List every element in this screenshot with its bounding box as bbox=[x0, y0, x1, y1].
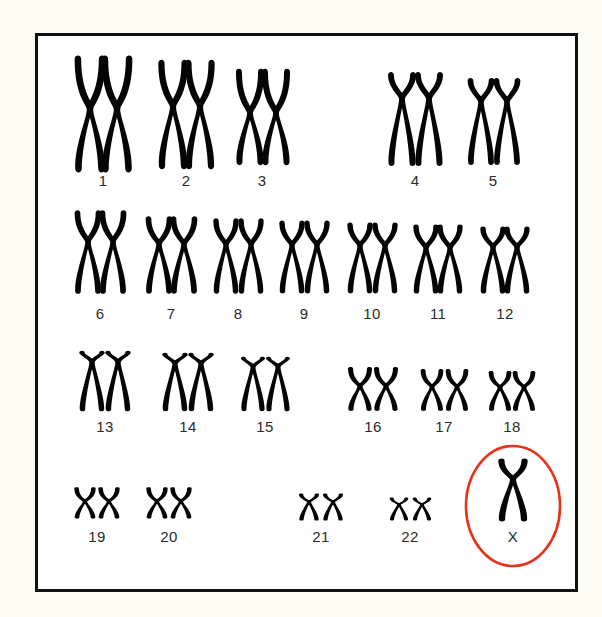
chromosome-X-1 bbox=[498, 459, 527, 522]
chromosome-group-5 bbox=[468, 78, 521, 165]
chromosome-label-16: 16 bbox=[364, 418, 381, 435]
chromosome-label-1: 1 bbox=[99, 172, 108, 189]
chromosome-group-20 bbox=[146, 487, 191, 518]
chromosome-1-1 bbox=[75, 56, 106, 173]
chromosome-17-2 bbox=[446, 369, 469, 411]
chromosome-11-2 bbox=[437, 224, 462, 293]
chromosome-group-10 bbox=[347, 222, 397, 293]
chromosome-16-2 bbox=[374, 367, 398, 411]
chromosome-4-1 bbox=[388, 72, 416, 166]
chromosome-group-18 bbox=[489, 371, 536, 411]
chromosome-group-2 bbox=[158, 60, 214, 170]
row-3 bbox=[79, 351, 535, 412]
chromosome-15-1 bbox=[241, 357, 265, 411]
chromosome-10-1 bbox=[347, 222, 372, 293]
chromosome-group-13 bbox=[79, 351, 130, 412]
chromosome-16-1 bbox=[348, 367, 372, 411]
chromosome-8-1 bbox=[213, 218, 238, 293]
chromosome-label-2: 2 bbox=[182, 172, 191, 189]
chromosome-label-18: 18 bbox=[503, 418, 520, 435]
chromosome-group-7 bbox=[146, 216, 198, 293]
chromosome-label-17: 17 bbox=[435, 418, 452, 435]
chromosome-5-2 bbox=[494, 78, 521, 165]
chromosome-22-1 bbox=[390, 497, 409, 520]
chromosome-label-22: 22 bbox=[401, 528, 418, 545]
row-1 bbox=[75, 56, 521, 173]
chromosome-21-2 bbox=[323, 493, 343, 520]
x-chromosome-highlight bbox=[466, 446, 560, 566]
chromosome-6-2 bbox=[100, 210, 127, 294]
chromosome-group-X bbox=[498, 459, 527, 522]
chromosome-group-1 bbox=[75, 56, 133, 173]
chromosome-6-1 bbox=[75, 210, 102, 294]
karyotype-canvas: 12345678910111213141516171819202122X bbox=[38, 36, 575, 589]
chromosome-label-5: 5 bbox=[489, 172, 498, 189]
chromosome-19-1 bbox=[74, 487, 95, 518]
chromosome-2-1 bbox=[158, 60, 187, 170]
chromosome-14-2 bbox=[188, 353, 213, 412]
chromosome-19-2 bbox=[98, 487, 119, 518]
chromosome-14-1 bbox=[162, 353, 187, 412]
chromosome-label-11: 11 bbox=[430, 305, 446, 322]
chromosome-label-15: 15 bbox=[256, 418, 273, 435]
chromosome-layer bbox=[74, 56, 535, 522]
chromosome-9-2 bbox=[304, 220, 329, 293]
chromosome-label-9: 9 bbox=[300, 305, 309, 322]
chromosome-3-1 bbox=[236, 69, 264, 165]
chromosome-2-2 bbox=[185, 60, 214, 170]
chromosome-label-7: 7 bbox=[167, 305, 176, 322]
chromosome-group-4 bbox=[388, 72, 443, 166]
chromosome-group-9 bbox=[279, 220, 329, 293]
chromosome-13-2 bbox=[105, 351, 130, 412]
chromosome-label-6: 6 bbox=[96, 305, 105, 322]
chromosome-17-1 bbox=[421, 369, 444, 411]
chromosome-13-1 bbox=[79, 351, 104, 412]
chromosome-12-2 bbox=[504, 227, 529, 294]
chromosome-group-17 bbox=[421, 369, 469, 411]
chromosome-group-22 bbox=[390, 497, 432, 520]
chromosome-group-12 bbox=[480, 227, 529, 294]
chromosome-label-19: 19 bbox=[88, 528, 105, 545]
chromosome-group-19 bbox=[74, 487, 119, 518]
chromosome-4-2 bbox=[415, 72, 443, 166]
chromosome-9-1 bbox=[279, 220, 304, 293]
chromosome-group-16 bbox=[348, 367, 398, 411]
chromosome-7-2 bbox=[171, 216, 198, 293]
chromosome-group-15 bbox=[241, 357, 290, 411]
chromosome-20-1 bbox=[146, 487, 167, 518]
chromosome-18-2 bbox=[513, 371, 536, 411]
chromosome-15-2 bbox=[266, 357, 290, 411]
chromosome-10-2 bbox=[372, 222, 397, 293]
chromosome-20-2 bbox=[170, 487, 191, 518]
chromosome-label-X: X bbox=[508, 528, 518, 545]
highlight-layer bbox=[466, 446, 560, 566]
chromosome-21-1 bbox=[299, 493, 319, 520]
chromosome-8-2 bbox=[238, 218, 263, 293]
chromosome-label-3: 3 bbox=[258, 172, 267, 189]
row-4 bbox=[74, 459, 527, 522]
chromosome-label-21: 21 bbox=[312, 528, 329, 545]
chromosome-3-2 bbox=[262, 69, 290, 165]
chromosome-label-layer: 12345678910111213141516171819202122X bbox=[88, 172, 520, 545]
chromosome-label-13: 13 bbox=[96, 418, 113, 435]
chromosome-group-21 bbox=[299, 493, 343, 520]
row-2 bbox=[75, 210, 530, 294]
chromosome-18-1 bbox=[489, 371, 512, 411]
chromosome-group-3 bbox=[236, 69, 290, 165]
chromosome-22-2 bbox=[413, 497, 432, 520]
chromosome-1-2 bbox=[102, 56, 133, 173]
chromosome-11-1 bbox=[413, 224, 438, 293]
chromosome-label-8: 8 bbox=[234, 305, 243, 322]
chromosome-7-1 bbox=[146, 216, 173, 293]
chromosome-group-8 bbox=[213, 218, 263, 293]
chromosome-label-10: 10 bbox=[363, 305, 380, 322]
chromosome-label-20: 20 bbox=[160, 528, 177, 545]
karyotype-figure: 12345678910111213141516171819202122X bbox=[35, 33, 578, 592]
chromosome-5-1 bbox=[468, 78, 495, 165]
chromosome-12-1 bbox=[480, 227, 505, 294]
chromosome-label-12: 12 bbox=[496, 305, 513, 322]
chromosome-label-14: 14 bbox=[179, 418, 196, 435]
chromosome-label-4: 4 bbox=[411, 172, 420, 189]
chromosome-group-11 bbox=[413, 224, 462, 293]
chromosome-group-6 bbox=[75, 210, 127, 294]
